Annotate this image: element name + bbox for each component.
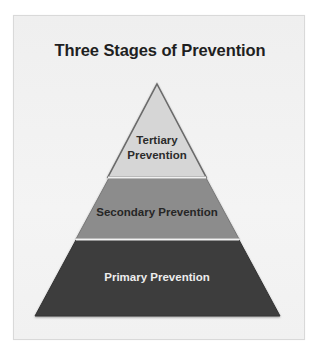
label-tertiary-prevention: Tertiary Prevention — [107, 133, 207, 163]
label-tertiary-line1: Tertiary — [107, 133, 207, 148]
label-tertiary-line2: Prevention — [107, 148, 207, 163]
label-secondary-prevention: Secondary Prevention — [77, 205, 237, 220]
layer-tertiary — [108, 84, 206, 177]
label-primary-prevention: Primary Prevention — [57, 270, 257, 285]
prevention-pyramid — [0, 0, 315, 351]
